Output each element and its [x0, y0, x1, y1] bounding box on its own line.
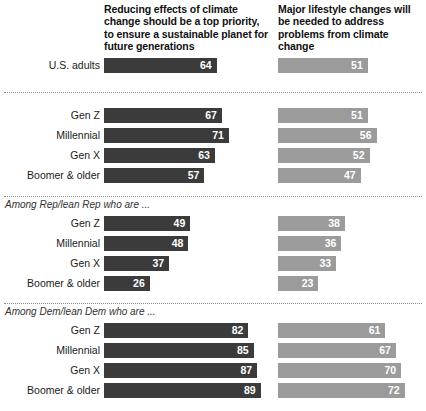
- row-label: Gen Z: [0, 323, 100, 338]
- bar-lifestyle: 70: [278, 363, 401, 378]
- bar-lifestyle: 36: [278, 236, 341, 251]
- row-label: Gen X: [0, 148, 100, 163]
- chart-row: Millennial8567: [0, 343, 426, 358]
- row-label: Millennial: [0, 236, 100, 251]
- bar-lifestyle: 61: [278, 323, 385, 338]
- chart-row: Gen X6352: [0, 148, 426, 163]
- bar-lifestyle: 38: [278, 216, 345, 231]
- bar-priority: 89: [104, 383, 261, 398]
- section-divider: [4, 303, 422, 305]
- bar-priority: 82: [104, 323, 248, 338]
- bar-priority: 67: [104, 108, 222, 123]
- row-label: Gen Z: [0, 108, 100, 123]
- bar-lifestyle: 51: [278, 108, 368, 123]
- bar-lifestyle: 67: [278, 343, 396, 358]
- bar-lifestyle: 72: [278, 383, 405, 398]
- chart-row: Gen Z8261: [0, 323, 426, 338]
- bar-priority: 49: [104, 216, 190, 231]
- chart-row: Boomer & older2623: [0, 276, 426, 291]
- chart-row: U.S. adults6451: [0, 58, 426, 73]
- section-divider: [4, 92, 422, 94]
- bar-priority: 85: [104, 343, 254, 358]
- bar-priority: 26: [104, 276, 150, 291]
- bar-lifestyle: 51: [278, 58, 368, 73]
- chart-row: Boomer & older5747: [0, 168, 426, 183]
- bar-priority: 57: [104, 168, 204, 183]
- bar-priority: 48: [104, 236, 188, 251]
- bar-priority: 37: [104, 256, 169, 271]
- section-label: Among Rep/lean Rep who are ...: [5, 199, 150, 210]
- row-label: U.S. adults: [0, 58, 100, 73]
- grouped-bar-chart: U.S. adults6451Gen Z6751Millennial7156Ge…: [0, 0, 426, 411]
- bar-priority: 64: [104, 58, 217, 73]
- chart-row: Millennial4836: [0, 236, 426, 251]
- bar-lifestyle: 56: [278, 128, 377, 143]
- chart-row: Gen X8770: [0, 363, 426, 378]
- row-label: Boomer & older: [0, 276, 100, 291]
- chart-row: Gen Z6751: [0, 108, 426, 123]
- chart-row: Millennial7156: [0, 128, 426, 143]
- bar-lifestyle: 47: [278, 168, 361, 183]
- row-label: Boomer & older: [0, 168, 100, 183]
- bar-lifestyle: 52: [278, 148, 370, 163]
- row-label: Gen Z: [0, 216, 100, 231]
- row-label: Millennial: [0, 128, 100, 143]
- chart-row: Boomer & older8972: [0, 383, 426, 398]
- bar-lifestyle: 23: [278, 276, 318, 291]
- row-label: Gen X: [0, 363, 100, 378]
- section-label: Among Dem/lean Dem who are ...: [5, 306, 156, 317]
- bar-priority: 87: [104, 363, 257, 378]
- row-label: Boomer & older: [0, 383, 100, 398]
- bar-lifestyle: 33: [278, 256, 336, 271]
- chart-row: Gen X3733: [0, 256, 426, 271]
- section-divider: [4, 196, 422, 198]
- row-label: Gen X: [0, 256, 100, 271]
- row-label: Millennial: [0, 343, 100, 358]
- bar-priority: 71: [104, 128, 229, 143]
- bar-priority: 63: [104, 148, 215, 163]
- chart-row: Gen Z4938: [0, 216, 426, 231]
